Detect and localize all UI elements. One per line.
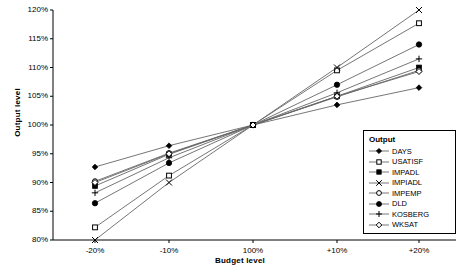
legend-item-days[interactable]: DAYS <box>369 146 452 157</box>
legend-item-label: IMPIADL <box>389 178 422 187</box>
legend-item-kosberg[interactable]: KOSBERG <box>369 209 452 220</box>
legend-item-label: IMPADL <box>389 168 419 177</box>
legend-title: Output <box>369 135 452 144</box>
legend-item-label: USATISF <box>389 157 423 166</box>
legend-item-label: KOSBERG <box>389 210 429 219</box>
legend-items: DAYSUSATISFIMPADLIMPIADLIMPEMPDLDKOSBERG… <box>369 146 452 230</box>
legend-item-usatisf[interactable]: USATISF <box>369 157 452 168</box>
legend-item-impiadl[interactable]: IMPIADL <box>369 178 452 189</box>
legend-marker-plus-icon <box>369 209 389 219</box>
legend-marker-cross-x-icon <box>369 178 389 188</box>
legend: Output DAYSUSATISFIMPADLIMPIADLIMPEMPDLD… <box>363 130 456 234</box>
legend-item-label: WKSAT <box>389 220 418 229</box>
legend-marker-filled-square-icon <box>369 167 389 177</box>
legend-item-label: DLD <box>389 199 407 208</box>
legend-marker-open-diamond-icon <box>369 220 389 230</box>
legend-item-label: DAYS <box>389 147 412 156</box>
legend-item-wksat[interactable]: WKSAT <box>369 220 452 231</box>
legend-item-label: IMPEMP <box>389 189 422 198</box>
legend-marker-filled-circle-icon <box>369 199 389 209</box>
legend-marker-open-circle-icon <box>369 188 389 198</box>
legend-marker-filled-diamond-icon <box>369 146 389 156</box>
legend-item-impemp[interactable]: IMPEMP <box>369 188 452 199</box>
legend-item-dld[interactable]: DLD <box>369 199 452 210</box>
chart-container: Output level Budget level 80%85%90%95%10… <box>0 0 463 268</box>
legend-marker-open-square-icon <box>369 157 389 167</box>
legend-item-impadl[interactable]: IMPADL <box>369 167 452 178</box>
